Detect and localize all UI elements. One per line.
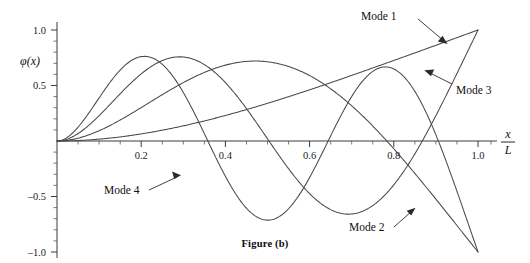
y-tick-label-1.0: 1.0 [33,25,46,36]
figure-container: 0.2 0.4 0.6 0.8 1.0 1.0 0.5 –0.5 –1.0 φ(… [0,0,530,263]
x-tick-labels: 0.2 0.4 0.6 0.8 1.0 [135,150,485,161]
mode-1-label: Mode 1 [361,10,397,22]
mode-4-leader [149,177,177,190]
mode-2-label: Mode 2 [349,221,385,233]
x-axis-label: x L [501,127,515,157]
x-tick-label-1.0: 1.0 [471,150,484,161]
x-tick-label-0.6: 0.6 [303,150,316,161]
figure-caption: Figure (b) [0,238,530,249]
y-axis-label: φ(x) [20,54,40,68]
x-axis-label-denominator: L [504,143,512,157]
axes-group [57,22,497,258]
y-tick-label-0.5: 0.5 [33,80,46,91]
x-major-ticks [141,141,478,147]
x-tick-label-0.8: 0.8 [387,150,400,161]
curve-mode-1 [57,30,478,141]
x-axis-label-numerator: x [504,127,511,141]
mode-shape-chart: 0.2 0.4 0.6 0.8 1.0 1.0 0.5 –0.5 –1.0 φ(… [0,0,530,263]
y-tick-label-neg0.5: –0.5 [27,191,46,202]
x-tick-label-0.4: 0.4 [219,150,233,161]
mode-1-leader [418,19,444,41]
x-minor-ticks [78,141,491,145]
curve-mode-2 [57,61,478,252]
mode-4-label: Mode 4 [104,184,140,196]
mode-3-label: Mode 3 [456,84,492,96]
mode-4-arrowhead [172,172,181,180]
x-tick-label-0.2: 0.2 [135,150,148,161]
mode-3-arrowhead [424,70,434,77]
